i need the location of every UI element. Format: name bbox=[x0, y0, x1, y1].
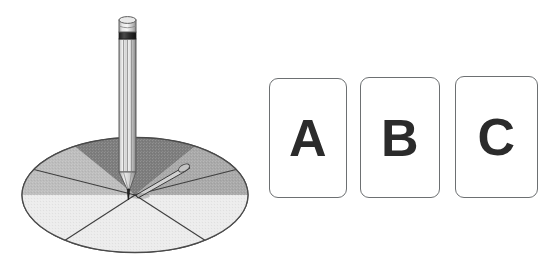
pencil-cap-top bbox=[119, 17, 136, 24]
card-c[interactable]: C bbox=[455, 76, 538, 198]
card-c-letter: C bbox=[477, 111, 515, 163]
illustration-canvas: A B C bbox=[0, 0, 551, 272]
pencil-shadow bbox=[130, 193, 150, 199]
card-a-letter: A bbox=[289, 112, 327, 164]
spinner-with-pencil[interactable] bbox=[14, 8, 258, 260]
card-b-letter: B bbox=[381, 112, 419, 164]
pencil-ferrule bbox=[119, 32, 136, 39]
card-a[interactable]: A bbox=[269, 78, 347, 198]
card-b[interactable]: B bbox=[360, 77, 440, 198]
spinner-svg bbox=[14, 8, 258, 260]
